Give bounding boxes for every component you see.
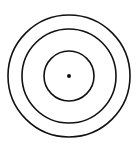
center-dot (67, 74, 71, 78)
concentric-circles-diagram (0, 0, 138, 146)
